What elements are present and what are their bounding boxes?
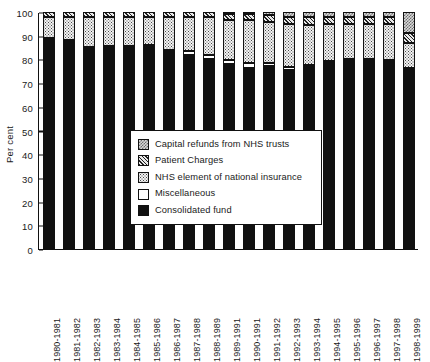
y-tick-mark: [39, 202, 43, 203]
y-tick-mark: [39, 84, 43, 85]
x-tick-label: 1993-1994: [312, 318, 322, 362]
legend-label: Miscellaneous: [155, 189, 215, 198]
x-tick-label: 1994-1995: [332, 318, 342, 362]
bar-segment: [243, 14, 255, 20]
bar-segment: [223, 14, 235, 20]
bar-segment: [323, 24, 335, 60]
bar-segment: [183, 12, 195, 17]
bar-segment: [283, 67, 295, 70]
bar-segment: [143, 17, 155, 46]
y-tick-mark: [39, 178, 43, 179]
bar-segment: [263, 15, 275, 22]
bar-segment: [243, 20, 255, 63]
x-tick-label: 1983-1984: [112, 318, 122, 362]
bar-segment: [183, 17, 195, 51]
x-axis-labels: 1980-19811981-19821982-19831983-19841984…: [38, 252, 418, 320]
y-tick-mark: [39, 107, 43, 108]
y-tick-label: 50: [22, 126, 39, 137]
y-tick-label: 20: [22, 197, 39, 208]
bar-segment: [223, 12, 235, 14]
x-tick-label: 1988-1989: [212, 318, 222, 362]
bar: [63, 13, 75, 249]
legend-swatch-consolidated: [138, 205, 149, 216]
bar-segment: [203, 12, 215, 17]
x-tick-label: 1991-1992: [272, 318, 282, 362]
bar-segment: [323, 17, 335, 24]
bar-segment: [63, 12, 75, 17]
bar-segment: [243, 12, 255, 14]
legend-item: Miscellaneous: [138, 186, 315, 203]
legend-label: NHS element of national insurance: [155, 173, 302, 182]
bar-segment: [303, 12, 315, 17]
legend-swatch-misc: [138, 189, 149, 200]
bar-segment: [343, 61, 355, 249]
bar-segment: [363, 12, 375, 17]
x-tick-label: 1992-1993: [292, 318, 302, 362]
bar: [43, 13, 55, 249]
bar-segment: [343, 12, 355, 17]
bar-segment: [223, 60, 235, 64]
legend-item: Consolidated fund: [138, 202, 315, 219]
y-tick-mark: [39, 226, 43, 227]
bar-segment: [283, 12, 295, 17]
bar-segment: [103, 47, 115, 249]
bar-segment: [203, 17, 215, 54]
bar-segment: [263, 22, 275, 63]
bar-segment: [163, 12, 175, 17]
legend-swatch-patient: [138, 155, 149, 166]
x-tick-label: 1985-1986: [152, 318, 162, 362]
x-tick-label: 1982-1983: [92, 318, 102, 362]
bar-segment: [123, 12, 135, 17]
legend-item: Patient Charges: [138, 153, 315, 170]
bar-segment: [143, 12, 155, 17]
x-tick-label: 1995-1996: [352, 318, 362, 362]
y-axis-label: Per cent: [4, 126, 15, 163]
bar-segment: [243, 63, 255, 68]
bar-segment: [103, 12, 115, 17]
bar-segment: [283, 24, 295, 67]
bar-segment: [363, 60, 375, 249]
bar-segment: [383, 12, 395, 17]
x-tick-label: 1986-1987: [172, 318, 182, 362]
y-tick-mark: [39, 249, 43, 250]
bar-segment: [83, 17, 95, 47]
x-tick-label: 1996-1997: [372, 318, 382, 362]
y-tick-label: 90: [22, 31, 39, 42]
bar-segment: [43, 39, 55, 249]
bar: [363, 13, 375, 249]
bar-segment: [123, 17, 135, 46]
y-tick-label: 100: [17, 8, 39, 19]
x-tick-label: 1998-1999: [412, 318, 422, 362]
bar-segment: [43, 17, 55, 38]
y-tick-mark: [39, 36, 43, 37]
y-tick-label: 10: [22, 221, 39, 232]
bar-segment: [263, 63, 275, 66]
legend-swatch-nhsins: [138, 172, 149, 183]
y-tick-mark: [39, 60, 43, 61]
bar-segment: [403, 33, 415, 42]
x-tick-label: 1990-1991: [252, 318, 262, 362]
bar: [383, 13, 395, 249]
x-tick-label: 1987-1988: [192, 318, 202, 362]
chart-legend: Capital refunds from NHS trustsPatient C…: [130, 130, 322, 225]
y-tick-mark: [39, 155, 43, 156]
bar-segment: [323, 12, 335, 17]
bar-segment: [103, 17, 115, 46]
legend-label: Consolidated fund: [155, 206, 232, 215]
x-tick-label: 1980-1981: [52, 318, 62, 362]
y-tick-label: 80: [22, 55, 39, 66]
bar-segment: [343, 17, 355, 24]
bar-segment: [43, 12, 55, 17]
bar-segment: [203, 55, 215, 59]
y-tick-label: 40: [22, 150, 39, 161]
x-tick-label: 1997-1998: [392, 318, 402, 362]
bar-segment: [383, 24, 395, 60]
legend-label: Capital refunds from NHS trusts: [155, 140, 289, 149]
bar-segment: [343, 24, 355, 59]
bar-segment: [403, 43, 415, 68]
y-tick-mark: [39, 131, 43, 132]
legend-item: Capital refunds from NHS trusts: [138, 136, 315, 153]
bar-segment: [83, 12, 95, 17]
x-tick-label: 1981-1982: [72, 318, 82, 362]
bar-segment: [183, 51, 195, 55]
